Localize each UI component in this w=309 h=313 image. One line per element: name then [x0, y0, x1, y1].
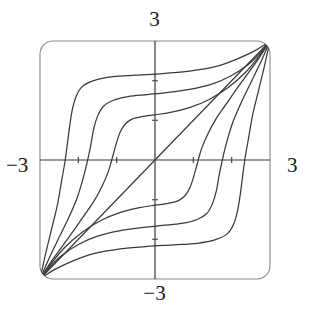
axis-label-right: 3: [287, 155, 298, 176]
plot-canvas: [0, 0, 309, 313]
contour-plot-figure: 3 −3 −3 3: [0, 0, 309, 313]
axis-label-top: 3: [0, 9, 309, 30]
axis-label-left: −3: [6, 155, 28, 176]
axis-label-bottom: −3: [0, 283, 309, 304]
